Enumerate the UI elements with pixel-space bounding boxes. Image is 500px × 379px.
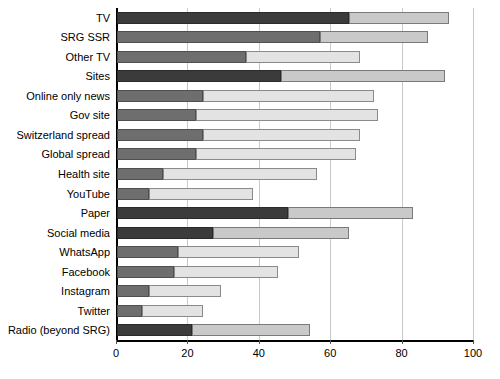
bar-segment [117, 305, 142, 317]
x-tick-label: 60 [310, 347, 350, 359]
bar-segment [117, 285, 149, 297]
bar-segment [196, 148, 357, 160]
bar-segment [174, 266, 278, 278]
category-label: Facebook [0, 266, 110, 278]
bar-chart: 020406080100 TVSRG SSROther TVSitesOnlin… [0, 0, 500, 379]
bar-segment [117, 109, 196, 121]
x-tick [402, 340, 403, 344]
bar-segment [213, 227, 349, 239]
category-label: Global spread [0, 148, 110, 160]
bar-segment [117, 51, 246, 63]
bar-segment [178, 246, 299, 258]
bar-segment [117, 12, 349, 24]
x-tick [330, 340, 331, 344]
category-label: Other TV [0, 51, 110, 63]
bar-segment [117, 148, 196, 160]
category-label: Instagram [0, 285, 110, 297]
bar-segment [117, 227, 213, 239]
x-tick [259, 340, 260, 344]
category-label: SRG SSR [0, 31, 110, 43]
x-tick-label: 40 [239, 347, 279, 359]
bar-segment [320, 31, 427, 43]
bar-segment [117, 207, 288, 219]
x-tick-label: 100 [453, 347, 493, 359]
category-labels: TVSRG SSROther TVSitesOnline only newsGo… [0, 0, 112, 379]
bar-segment [196, 109, 378, 121]
x-tick [116, 340, 117, 344]
category-label: Radio (beyond SRG) [0, 324, 110, 336]
x-tick-label: 20 [167, 347, 207, 359]
bar-segment [203, 90, 374, 102]
category-label: Paper [0, 207, 110, 219]
category-label: Health site [0, 168, 110, 180]
category-label: WhatsApp [0, 246, 110, 258]
category-label: Online only news [0, 90, 110, 102]
bar-segment [117, 188, 149, 200]
bar-segment [149, 285, 220, 297]
category-label: TV [0, 12, 110, 24]
bar-segment [117, 129, 203, 141]
category-label: YouTube [0, 188, 110, 200]
bar-segment [246, 51, 360, 63]
bar-segment [117, 266, 174, 278]
bar-segment [203, 129, 360, 141]
bars-area [117, 8, 474, 340]
category-label: Twitter [0, 305, 110, 317]
bar-segment [117, 70, 281, 82]
bar-segment [192, 324, 310, 336]
bar-segment [288, 207, 413, 219]
bar-segment [117, 168, 163, 180]
x-tick [473, 340, 474, 344]
bar-segment [117, 246, 178, 258]
bar-segment [349, 12, 449, 24]
bar-segment [149, 188, 253, 200]
bar-segment [117, 324, 192, 336]
bar-segment [117, 90, 203, 102]
x-tick [187, 340, 188, 344]
x-axis-line [116, 340, 474, 342]
bar-segment [142, 305, 203, 317]
bar-segment [281, 70, 445, 82]
category-label: Gov site [0, 109, 110, 121]
bar-segment [163, 168, 317, 180]
category-label: Sites [0, 70, 110, 82]
category-label: Social media [0, 227, 110, 239]
bar-segment [117, 31, 320, 43]
category-label: Switzerland spread [0, 129, 110, 141]
x-tick-label: 80 [382, 347, 422, 359]
